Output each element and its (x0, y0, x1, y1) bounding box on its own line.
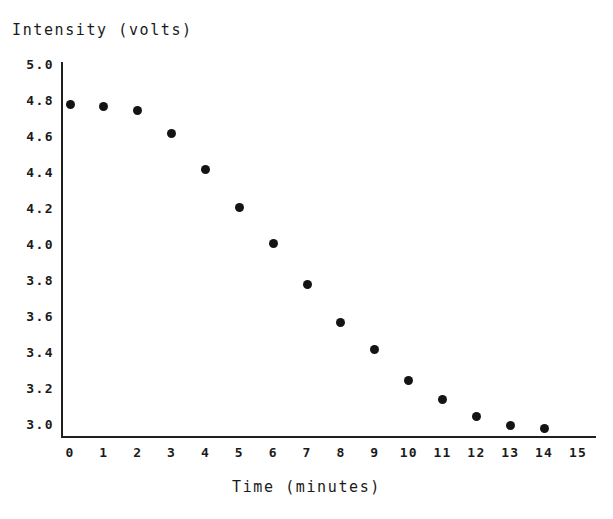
y-axis-title: Intensity (volts) (12, 21, 193, 39)
data-point (404, 376, 413, 385)
x-tick-label: 5 (235, 445, 244, 460)
data-point (235, 203, 244, 212)
y-tick-label: 3.0 (14, 417, 54, 432)
y-axis-line (61, 62, 63, 438)
x-tick-label: 1 (99, 445, 108, 460)
data-point (201, 165, 210, 174)
x-tick-label: 14 (535, 445, 553, 460)
x-tick-label: 10 (400, 445, 418, 460)
x-tick-label: 2 (133, 445, 142, 460)
x-tick-label: 7 (303, 445, 312, 460)
data-point (99, 102, 108, 111)
y-tick-label: 3.6 (14, 309, 54, 324)
y-tick-label: 4.2 (14, 201, 54, 216)
data-point (472, 412, 481, 421)
scatter-chart-figure: Intensity (volts) 3.03.23.43.63.84.04.24… (0, 0, 613, 519)
data-point (167, 129, 176, 138)
data-point (303, 280, 312, 289)
y-tick-label: 3.2 (14, 381, 54, 396)
x-tick-label: 15 (569, 445, 587, 460)
data-point (506, 421, 515, 430)
y-tick-label: 4.0 (14, 237, 54, 252)
data-point (66, 100, 75, 109)
y-tick-label: 3.4 (14, 345, 54, 360)
y-tick-label: 4.8 (14, 93, 54, 108)
x-tick-label: 9 (370, 445, 379, 460)
data-point (370, 345, 379, 354)
x-tick-label: 11 (434, 445, 452, 460)
y-tick-label: 5.0 (14, 57, 54, 72)
data-point (336, 318, 345, 327)
x-tick-label: 13 (501, 445, 519, 460)
y-tick-label: 4.6 (14, 129, 54, 144)
x-axis-title: Time (minutes) (0, 478, 613, 496)
x-tick-label: 4 (201, 445, 210, 460)
data-point (269, 239, 278, 248)
x-tick-label: 0 (65, 445, 74, 460)
data-point (133, 106, 142, 115)
x-tick-label: 3 (167, 445, 176, 460)
y-tick-label: 3.8 (14, 273, 54, 288)
y-tick-label: 4.4 (14, 165, 54, 180)
x-tick-label: 12 (467, 445, 485, 460)
x-tick-label: 6 (269, 445, 278, 460)
data-point (540, 424, 549, 433)
x-axis-line (61, 436, 596, 438)
x-tick-label: 8 (336, 445, 345, 460)
data-point (438, 395, 447, 404)
